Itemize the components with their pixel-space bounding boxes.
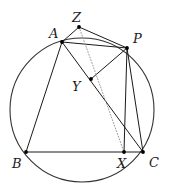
label-c: C xyxy=(149,156,159,169)
label-z: Z xyxy=(72,11,81,24)
segment-A-P xyxy=(62,42,127,48)
point-y xyxy=(89,77,93,81)
segment-Z-A xyxy=(62,27,79,42)
segment-Z-P xyxy=(79,27,127,48)
label-p: P xyxy=(133,32,142,45)
label-b: B xyxy=(12,157,22,170)
point-x xyxy=(122,150,126,154)
point-p xyxy=(125,46,129,50)
label-a: A xyxy=(49,27,58,40)
point-z xyxy=(77,25,81,29)
point-b xyxy=(24,150,28,154)
label-y: Y xyxy=(72,80,81,93)
segment-A-C xyxy=(62,42,143,152)
segments-group xyxy=(26,27,143,152)
point-a xyxy=(60,40,64,44)
circumcircle xyxy=(10,38,154,182)
segment-P-C xyxy=(127,48,143,152)
circumcircle-group xyxy=(10,38,154,182)
label-x: X xyxy=(117,157,126,170)
segment-P-X xyxy=(124,48,127,152)
geometry-figure: AZPYBXC xyxy=(0,0,170,189)
diagram-canvas xyxy=(0,0,170,189)
point-c xyxy=(141,150,145,154)
